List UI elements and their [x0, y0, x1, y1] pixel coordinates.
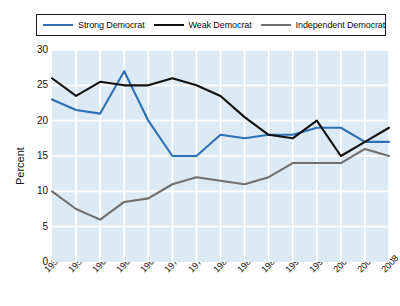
chart-container: Strong DemocratWeak DemocratIndependent …: [0, 0, 400, 306]
plot-area: [0, 0, 400, 306]
